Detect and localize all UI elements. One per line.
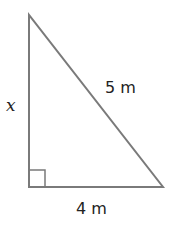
right-triangle xyxy=(29,15,163,187)
hypotenuse-label: 5 m xyxy=(105,78,136,97)
right-angle-marker xyxy=(29,170,45,187)
triangle-diagram xyxy=(0,0,183,230)
vertical-side-label: x xyxy=(6,95,16,115)
base-label: 4 m xyxy=(76,199,107,218)
